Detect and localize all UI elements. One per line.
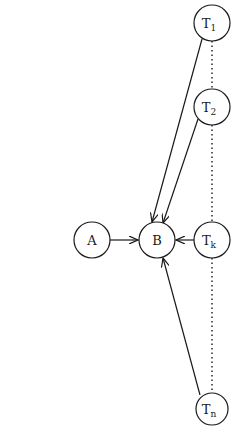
node-b-label: B xyxy=(152,233,162,248)
dependency-diagram: A B T1 T2 Tk Tn xyxy=(0,0,247,426)
node-tn-subscript: n xyxy=(210,409,216,419)
node-tn: Tn xyxy=(196,393,228,425)
node-t1-label: T xyxy=(202,16,211,31)
node-b: B xyxy=(139,222,175,258)
edge-t2-to-b xyxy=(163,119,198,223)
node-t2: T2 xyxy=(194,89,230,125)
node-t1: T1 xyxy=(194,5,230,41)
node-t2-label: T xyxy=(202,100,211,115)
node-t1-subscript: 1 xyxy=(210,23,216,33)
node-t2-subscript: 2 xyxy=(210,107,216,117)
edge-tn-to-b xyxy=(163,258,200,395)
node-tn-label: T xyxy=(202,402,211,417)
node-tk-label: T xyxy=(202,233,211,248)
node-a-label: A xyxy=(86,233,97,248)
node-a: A xyxy=(74,222,110,258)
node-tk-subscript: k xyxy=(211,240,217,250)
node-tk: Tk xyxy=(194,222,230,258)
